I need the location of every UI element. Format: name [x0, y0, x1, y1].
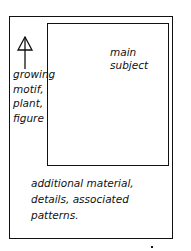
bottom-label-line: details, associated — [31, 191, 171, 207]
bottom-label-line: additional material, — [31, 175, 171, 191]
additional-material-label: additional material, details, associated… — [31, 175, 171, 223]
main-subject-panel — [47, 23, 169, 166]
side-label-line: growing — [13, 67, 53, 82]
bottom-label-line: patterns. — [31, 207, 171, 223]
stray-mark — [151, 246, 153, 248]
side-label-line: figure — [13, 111, 53, 126]
side-label-line: plant, — [13, 96, 53, 111]
up-arrow-icon — [16, 36, 34, 70]
main-subject-label: main subject — [110, 46, 170, 72]
main-label-line: main — [110, 46, 170, 59]
growing-motif-label: growing motif, plant, figure — [13, 67, 53, 125]
main-label-line: subject — [110, 59, 170, 72]
side-label-line: motif, — [13, 82, 53, 97]
